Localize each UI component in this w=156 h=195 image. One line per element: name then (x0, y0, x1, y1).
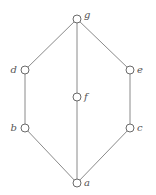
edge-c-a (77, 128, 130, 183)
node-label-c: c (137, 122, 143, 133)
node-e (126, 66, 134, 74)
node-c (126, 124, 134, 132)
node-g (73, 15, 81, 23)
edge-g-e (77, 19, 130, 70)
node-label-e: e (137, 64, 143, 75)
edge-g-d (25, 19, 77, 70)
edge-b-a (25, 128, 77, 183)
hasse-diagram: gdefbca (0, 0, 156, 195)
node-label-b: b (11, 122, 17, 133)
node-label-a: a (84, 177, 90, 188)
node-label-f: f (83, 91, 90, 102)
node-d (21, 66, 29, 74)
node-label-d: d (11, 64, 17, 75)
node-b (21, 124, 29, 132)
node-f (73, 93, 81, 101)
node-label-g: g (84, 9, 90, 20)
node-a (73, 179, 81, 187)
